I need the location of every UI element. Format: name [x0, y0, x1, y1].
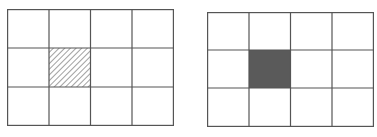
- filled-cell: [249, 50, 291, 88]
- right-grid-panel: [207, 12, 374, 127]
- left-grid: [7, 9, 174, 126]
- hatched-cell: [49, 48, 91, 87]
- right-grid: [207, 12, 374, 127]
- left-grid-panel: [7, 9, 174, 126]
